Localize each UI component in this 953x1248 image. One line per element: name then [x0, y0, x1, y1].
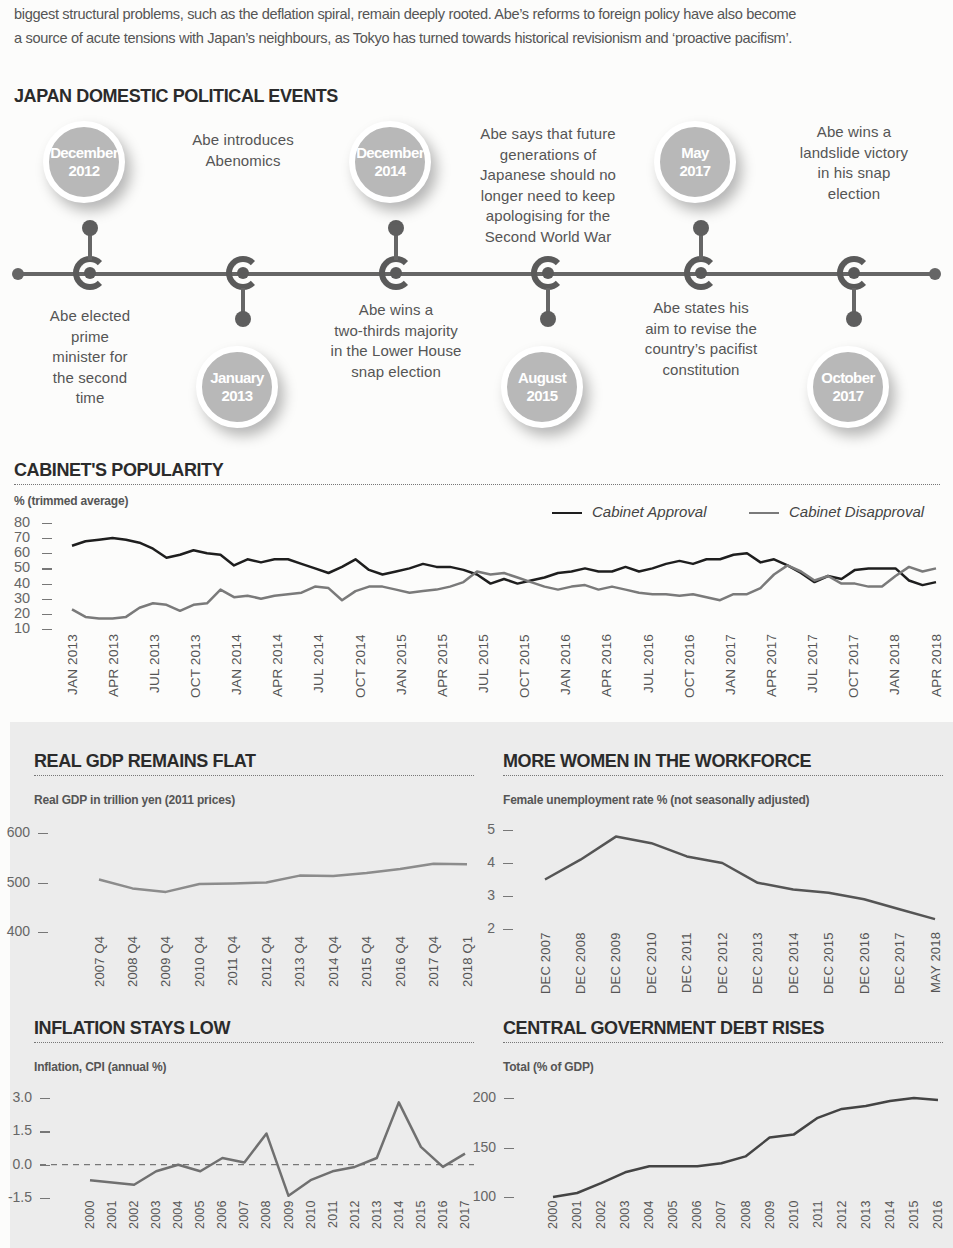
series-line-central-government-debt	[553, 1098, 938, 1197]
plot-area	[0, 0, 953, 1248]
